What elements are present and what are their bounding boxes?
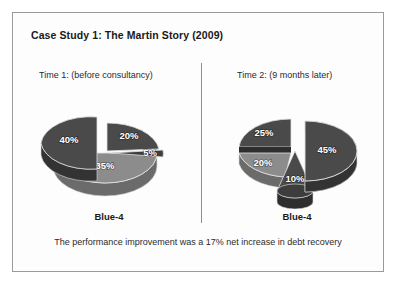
footnote-text: The performance improvement was a 17% ne… bbox=[13, 237, 383, 247]
slice-label-35: 35% bbox=[95, 160, 115, 171]
slice-label-40: 40% bbox=[59, 134, 79, 145]
panel-divider bbox=[201, 63, 202, 223]
slice-label-25: 25% bbox=[254, 127, 274, 138]
slice-label-45: 45% bbox=[317, 144, 337, 155]
pie-chart-time-1: 35% 20% 5% 40% bbox=[19, 87, 199, 209]
slice-45-3d-exploded bbox=[305, 121, 357, 192]
slice-40-3d-exploded bbox=[41, 117, 97, 181]
series-label-left: Blue-4 bbox=[19, 211, 199, 222]
panel-caption-right: Time 2: (9 months later) bbox=[237, 70, 332, 80]
panel-caption-left: Time 1: (before consultancy) bbox=[39, 70, 153, 80]
series-label-right: Blue-4 bbox=[207, 211, 387, 222]
slide-frame: Case Study 1: The Martin Story (2009) Ti… bbox=[12, 12, 384, 272]
slice-label-10: 10% bbox=[285, 173, 305, 184]
pie-chart-time-2: 25% 20% 10% bbox=[207, 87, 387, 209]
pie-chart-time-2-svg: 25% 20% 10% bbox=[207, 87, 387, 209]
slice-label-5: 5% bbox=[143, 147, 157, 158]
slice-label-20: 20% bbox=[119, 130, 139, 141]
slice-label-20b: 20% bbox=[253, 157, 273, 168]
pie-chart-time-1-svg: 35% 20% 5% 40% bbox=[19, 87, 199, 209]
page-title: Case Study 1: The Martin Story (2009) bbox=[31, 29, 223, 41]
